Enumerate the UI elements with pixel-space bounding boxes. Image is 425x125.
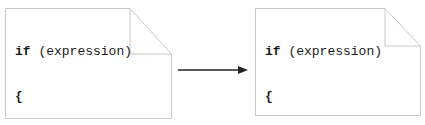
arrow-right-icon xyxy=(176,63,250,77)
open-brace: { xyxy=(15,89,23,104)
source-code-document: if (expression) { ... } // if else ; xyxy=(5,8,172,119)
open-brace: { xyxy=(265,89,273,104)
code-line: if (expression) xyxy=(265,44,382,59)
result-code-document: if (expression) { ... } // if xyxy=(255,8,421,116)
code-line: { xyxy=(265,89,382,104)
code-line: if (expression) xyxy=(15,44,132,59)
code-transformation-diagram: if (expression) { ... } // if else ; if … xyxy=(0,0,425,125)
keyword-if: if xyxy=(265,44,281,59)
result-code-block: if (expression) { ... } // if xyxy=(265,14,382,125)
keyword-if: if xyxy=(15,44,31,59)
source-code-block: if (expression) { ... } // if else ; xyxy=(15,14,132,125)
code-line: { xyxy=(15,89,132,104)
